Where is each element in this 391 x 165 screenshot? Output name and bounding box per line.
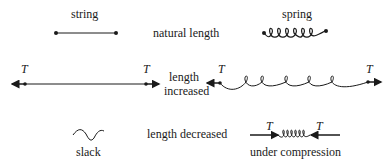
slack-string	[73, 130, 104, 140]
stretched-spring	[207, 76, 381, 89]
string-spring-diagram	[0, 0, 391, 165]
natural-spring	[262, 28, 328, 37]
natural-string	[54, 31, 118, 35]
compressed-spring	[250, 130, 340, 137]
taut-string	[12, 82, 159, 86]
